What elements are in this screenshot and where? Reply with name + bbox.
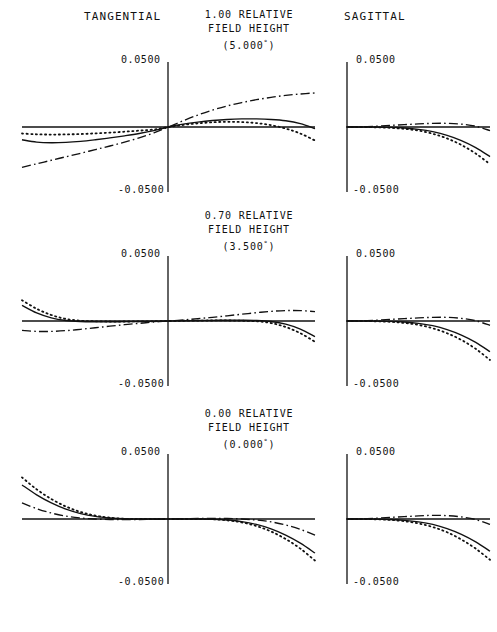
field-title-row-1: 1.00 RELATIVE FIELD HEIGHT (5.000°): [174, 8, 324, 53]
plot-sagittal-field-1: [330, 50, 497, 210]
field-height-label-row-1: FIELD HEIGHT: [174, 22, 324, 36]
field-relative-row-3: 0.00 RELATIVE: [174, 407, 324, 421]
field-relative-row-2: 0.70 RELATIVE: [174, 209, 324, 223]
curve-wavelength-2-dotted: [347, 127, 490, 164]
curve-wavelength-1-solid: [347, 321, 490, 352]
curve-wavelength-2-dotted: [347, 519, 490, 560]
field-height-label-row-3: FIELD HEIGHT: [174, 421, 324, 435]
curve-wavelength-1-solid: [347, 519, 490, 551]
plot-sagittal-field-3: [330, 442, 497, 602]
column-header-sagittal: SAGITTAL: [344, 10, 406, 23]
curve-wavelength-3-dashdot: [347, 515, 490, 524]
curve-wavelength-1-solid: [347, 127, 490, 157]
curve-wavelength-2-dotted: [347, 321, 490, 360]
plot-tangential-field-3: [0, 442, 330, 602]
plot-tangential-field-1: [0, 50, 330, 210]
plot-sagittal-field-2: [330, 244, 497, 404]
plot-tangential-field-2: [0, 244, 330, 404]
field-height-label-row-2: FIELD HEIGHT: [174, 223, 324, 237]
field-relative-row-1: 1.00 RELATIVE: [174, 8, 324, 22]
column-header-tangential: TANGENTIAL: [84, 10, 161, 23]
ray-aberration-figure: TANGENTIAL SAGITTAL 1.00 RELATIVE FIELD …: [0, 0, 497, 632]
